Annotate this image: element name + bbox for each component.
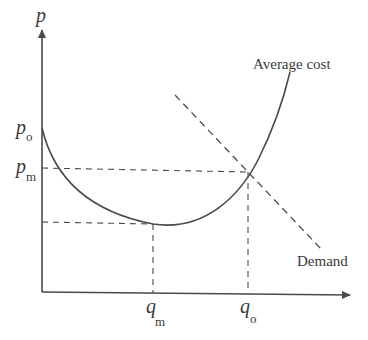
svg-text:o: o — [250, 311, 257, 326]
demand-label: Demand — [297, 253, 348, 269]
p-m-guide-line — [42, 168, 248, 172]
p-o-label: p o — [14, 116, 33, 144]
svg-text:m: m — [26, 169, 36, 184]
svg-text:p: p — [14, 155, 26, 178]
diagram-canvas: p p o p m Average cost Demand q m q — [0, 0, 368, 340]
average-cost-demand-diagram: p p o p m Average cost Demand q m q — [0, 0, 368, 340]
average-cost-label: Average cost — [253, 56, 331, 72]
average-cost-curve — [42, 72, 290, 225]
q-m-label: q m — [146, 295, 165, 329]
y-axis-label: p — [34, 4, 46, 27]
min-ac-guide-line — [42, 222, 153, 224]
p-m-label: p m — [14, 155, 36, 184]
svg-text:q: q — [240, 295, 250, 318]
q-o-label: q o — [240, 295, 257, 326]
x-axis — [42, 292, 350, 295]
svg-text:o: o — [26, 129, 33, 144]
svg-text:p: p — [14, 116, 26, 139]
svg-text:m: m — [155, 314, 165, 329]
